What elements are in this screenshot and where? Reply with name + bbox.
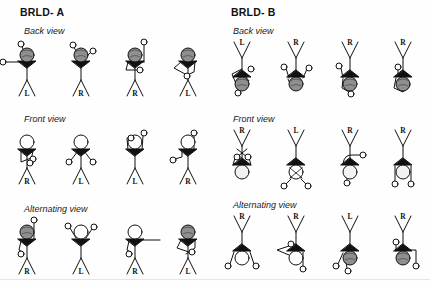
view-label-alternating-b: Alternating view [233, 200, 297, 210]
panel-brld-b: BRLD- B Back view L [215, 0, 430, 285]
figure-a-back-2: R [54, 38, 108, 100]
leg-label-b-alt-3: L [347, 212, 352, 221]
figure-b-back-4: R [376, 36, 430, 102]
leg-label-a-alt-2: L [78, 267, 83, 276]
leg-label-a-front-2: L [78, 177, 83, 186]
figure-a-back-4: L [161, 38, 215, 100]
leg-label-a-front-3: L [132, 177, 137, 186]
figure-a-alt-3: R [108, 216, 162, 278]
figure-a-alt-2: L [54, 216, 108, 278]
figure-a-alt-1: R [0, 216, 54, 278]
leg-label-b-front-2: L [293, 126, 298, 135]
figure-a-alt-4: L [161, 216, 215, 278]
leg-label-b-alt-4: R [401, 212, 407, 221]
leg-label-b-alt-2: R [293, 212, 299, 221]
figure-group-alternating-a: R [0, 216, 215, 278]
figure-a-front-2: L [54, 126, 108, 188]
leg-label-a-front-4: R [186, 177, 192, 186]
leg-label-a-alt-1: R [24, 267, 30, 276]
leg-label-b-back-3: R [347, 38, 353, 47]
leg-label-b-alt-1: R [239, 212, 245, 221]
diagram-sheet: BRLD- A Back view [0, 0, 430, 285]
figure-b-front-3: R [323, 124, 377, 190]
leg-label-a-back-1: L [24, 89, 29, 98]
figure-b-alt-1: R [215, 210, 269, 276]
leg-label-b-back-4: R [401, 38, 407, 47]
scan-artifact-line [0, 279, 430, 280]
figure-b-alt-2: R [269, 210, 323, 276]
figure-a-front-4: R [161, 126, 215, 188]
figure-b-back-3: R [323, 36, 377, 102]
figure-b-back-2: R [269, 36, 323, 102]
figure-group-front-b: R [215, 124, 430, 190]
figure-b-front-4: R [376, 124, 430, 190]
view-label-alternating-a: Alternating view [24, 204, 88, 214]
panel-b-title: BRLD- B [231, 6, 276, 18]
leg-label-a-back-4: L [186, 89, 191, 98]
leg-label-a-front-1: R [24, 177, 30, 186]
figure-group-front-a: R [0, 126, 215, 188]
leg-label-b-front-4: R [401, 126, 407, 135]
figure-b-alt-4: R [376, 210, 430, 276]
view-label-front-b: Front view [233, 114, 275, 124]
leg-label-b-front-3: R [347, 126, 353, 135]
figure-b-front-1: R [215, 124, 269, 190]
figure-b-front-2: L [269, 124, 323, 190]
panel-brld-a: BRLD- A Back view [0, 0, 215, 285]
figure-a-front-1: R [0, 126, 54, 188]
figure-group-back-b: L [215, 36, 430, 102]
view-label-back-a: Back view [24, 26, 65, 36]
leg-label-b-front-1: R [239, 126, 245, 135]
figure-b-back-1: L [215, 36, 269, 102]
figure-group-alternating-b: R [215, 210, 430, 276]
panel-a-title: BRLD- A [20, 6, 64, 18]
leg-label-a-back-3: R [132, 89, 138, 98]
figure-a-back-1: L [0, 38, 54, 100]
leg-label-a-alt-3: R [132, 267, 138, 276]
figure-a-back-3: R [108, 38, 162, 100]
leg-label-b-back-2: R [293, 38, 299, 47]
figure-group-back-a: L [0, 38, 215, 100]
leg-label-a-back-2: R [78, 89, 84, 98]
leg-label-a-alt-4: L [186, 267, 191, 276]
figure-b-alt-3: L [323, 210, 377, 276]
view-label-front-a: Front view [24, 114, 66, 124]
leg-label-b-back-1: L [239, 38, 244, 47]
view-label-back-b: Back view [233, 26, 274, 36]
figure-a-front-3: L [108, 126, 162, 188]
